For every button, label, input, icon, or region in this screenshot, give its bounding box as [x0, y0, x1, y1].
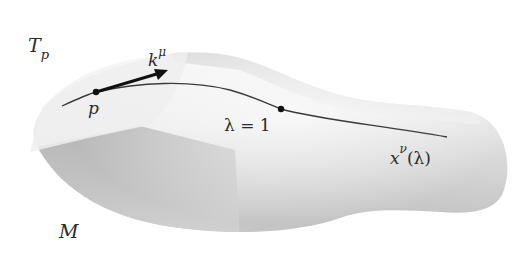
vector-label: kμ — [148, 49, 166, 69]
curve-symbol: x — [390, 148, 400, 168]
vector-symbol: k — [148, 50, 158, 70]
curve-superscript: ν — [400, 142, 407, 156]
lambda-label: λ = 1 — [224, 117, 271, 134]
curve-argument: (λ) — [407, 148, 431, 168]
vector-superscript: μ — [158, 45, 166, 59]
curve-label: xν(λ) — [390, 147, 431, 167]
tangent-space-subscript: p — [41, 47, 49, 62]
point-p-label: p — [88, 100, 99, 117]
tangent-space-symbol: T — [28, 34, 41, 56]
tangent-space-label: Tp — [28, 36, 49, 59]
point-p — [93, 89, 99, 95]
manifold-figure: Tp kμ p λ = 1 xν(λ) M — [0, 0, 530, 259]
manifold-label: M — [59, 222, 78, 241]
point-lambda-1 — [278, 106, 284, 112]
